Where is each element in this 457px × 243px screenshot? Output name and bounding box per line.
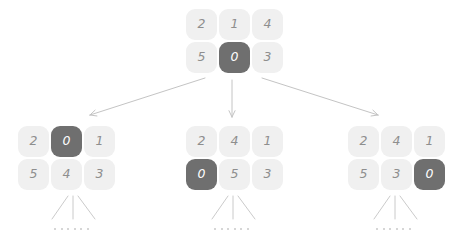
puzzle-tile: 1 (252, 126, 283, 157)
ellipsis-dot (389, 228, 391, 230)
child-puzzle-middle: 241053 (186, 126, 283, 190)
frontier-middle-branch-2 (238, 196, 255, 219)
puzzle-tile: 2 (186, 9, 217, 40)
puzzle-tile: 2 (186, 126, 217, 157)
child-puzzle-right: 241530 (348, 126, 445, 190)
edge-root-to-right (262, 78, 378, 115)
puzzle-tile: 2 (18, 126, 49, 157)
puzzle-tile: 0 (186, 159, 217, 190)
puzzle-tile: 5 (186, 42, 217, 73)
puzzle-tile: 0 (414, 159, 445, 190)
puzzle-tile: 3 (381, 159, 412, 190)
ellipsis-dot (402, 228, 404, 230)
edge-root-to-middle-arrowhead (229, 111, 235, 117)
ellipsis-dot (240, 228, 242, 230)
puzzle-tile: 1 (219, 9, 250, 40)
edge-root-to-left (90, 78, 205, 115)
puzzle-tile: 5 (18, 159, 49, 190)
ellipsis-dot (61, 228, 63, 230)
ellipsis-dot (383, 228, 385, 230)
ellipsis-dot (74, 228, 76, 230)
frontier-left-branch-0 (52, 196, 68, 219)
ellipsis-dot (227, 228, 229, 230)
ellipsis-dot (376, 228, 378, 230)
ellipsis-dot (214, 228, 216, 230)
puzzle-tile: 1 (414, 126, 445, 157)
ellipsis-dot (54, 228, 56, 230)
edge-root-to-right-arrowhead (371, 110, 378, 116)
puzzle-tile: 2 (348, 126, 379, 157)
puzzle-tile: 0 (219, 42, 250, 73)
frontier-right-branch-2 (400, 196, 417, 219)
puzzle-tile: 5 (219, 159, 250, 190)
frontier-left-ellipsis (54, 228, 89, 230)
ellipsis-dot (234, 228, 236, 230)
puzzle-tile: 4 (219, 126, 250, 157)
puzzle-tile: 4 (381, 126, 412, 157)
ellipsis-dot (80, 228, 82, 230)
frontier-right-ellipsis (376, 228, 411, 230)
puzzle-tile: 4 (51, 159, 82, 190)
frontier-right-branch-0 (374, 196, 390, 219)
frontier-middle-ellipsis (214, 228, 249, 230)
child-puzzle-left: 201543 (18, 126, 115, 190)
puzzle-tile: 4 (252, 9, 283, 40)
frontier-left-branch-2 (78, 196, 95, 219)
diagram-canvas: 214503201543241053241530 (0, 0, 457, 243)
frontier-middle-branch-0 (212, 196, 228, 219)
root-puzzle: 214503 (186, 9, 283, 73)
ellipsis-dot (67, 228, 69, 230)
puzzle-tile: 0 (51, 126, 82, 157)
edge-root-to-left-arrowhead (90, 110, 97, 116)
ellipsis-dot (409, 228, 411, 230)
ellipsis-dot (87, 228, 89, 230)
puzzle-tile: 5 (348, 159, 379, 190)
ellipsis-dot (247, 228, 249, 230)
puzzle-tile: 3 (252, 159, 283, 190)
ellipsis-dot (396, 228, 398, 230)
puzzle-tile: 3 (252, 42, 283, 73)
puzzle-tile: 3 (84, 159, 115, 190)
puzzle-tile: 1 (84, 126, 115, 157)
ellipsis-dot (221, 228, 223, 230)
